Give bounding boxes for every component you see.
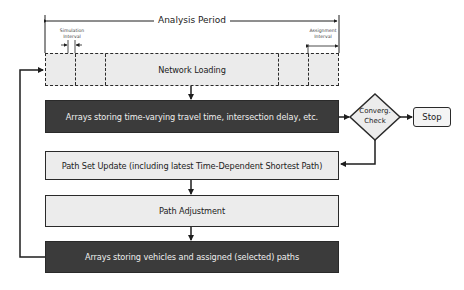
simulation-interval-marker <box>61 40 82 53</box>
network-loading-label: Network Loading <box>158 65 226 75</box>
stop-box: Stop <box>413 107 451 127</box>
vehicle-path-arrays-label: Arrays storing vehicles and assigned (se… <box>85 252 299 262</box>
convergence-check-label: Converg. Check <box>352 106 398 126</box>
simulation-interval-label-line2: Interval <box>56 34 88 40</box>
simulation-interval-divider <box>278 54 279 85</box>
simulation-interval-label: Simulation Interval <box>56 28 88 40</box>
path-set-update-box: Path Set Update (including latest Time-D… <box>45 151 339 180</box>
simulation-interval-divider <box>105 54 106 85</box>
analysis-period-label: Analysis Period <box>154 15 230 25</box>
path-adjustment-box: Path Adjustment <box>45 195 339 227</box>
time-varying-arrays-box: Arrays storing time-varying travel time,… <box>45 100 339 133</box>
simulation-interval-divider <box>75 54 76 85</box>
path-set-update-label: Path Set Update (including latest Time-D… <box>62 161 323 171</box>
assignment-interval-divider <box>308 54 309 85</box>
convergence-check-label-line2: Check <box>352 116 398 126</box>
arrow-check-to-path-set-update <box>341 140 375 164</box>
stop-label: Stop <box>422 112 441 122</box>
path-adjustment-label: Path Adjustment <box>159 206 225 216</box>
vehicle-path-arrays-box: Arrays storing vehicles and assigned (se… <box>45 241 339 273</box>
arrow-feedback-loop <box>20 70 45 257</box>
time-varying-arrays-label: Arrays storing time-varying travel time,… <box>66 112 318 122</box>
convergence-check-label-line1: Converg. <box>352 106 398 116</box>
assignment-interval-label: Assignment Interval <box>305 28 341 40</box>
network-loading-box: Network Loading <box>45 53 339 86</box>
assignment-interval-marker <box>308 44 338 53</box>
assignment-interval-label-line2: Interval <box>305 34 341 40</box>
